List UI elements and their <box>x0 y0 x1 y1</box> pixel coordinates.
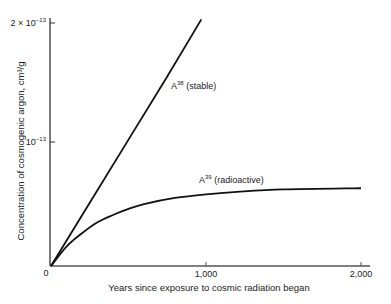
y-tick-label-2e-13: 2 × 10−13 <box>11 17 47 28</box>
series-label-radioactive: A39 (radioactive) <box>199 174 264 185</box>
series-line-stable <box>51 19 201 266</box>
chart: 2 × 10−13 10−13 0 1,000 2,000 Years sinc… <box>0 0 391 304</box>
x-axis-label: Years since exposure to cosmic radiation… <box>108 282 309 293</box>
y-axis-label: Concentration of cosmogenic argon, cm³/g <box>15 61 26 240</box>
series-label-stable: A38 (stable) <box>171 80 216 91</box>
x-tick-label-2000: 2,000 <box>350 269 373 279</box>
x-tick-label-1000: 1,000 <box>195 269 218 279</box>
x-tick-label-0: 0 <box>43 268 48 278</box>
y-tick-label-1e-13: 10−13 <box>26 136 47 147</box>
series-line-radioactive <box>51 188 361 266</box>
